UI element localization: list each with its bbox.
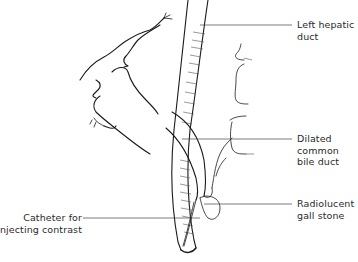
duodenum-outline [216, 44, 254, 176]
gall-stone [200, 196, 220, 219]
label-left-hepatic-duct: Left hepatic duct [297, 19, 354, 42]
leader-lines [83, 25, 292, 218]
label-catheter: Catheter for injecting contrast [0, 212, 82, 235]
label-radiolucent-gall-stone: Radiolucent gall stone [297, 198, 354, 221]
intrahepatic-ducts [80, 13, 172, 154]
label-dilated-common-bile-duct: Dilated common bile duct [297, 133, 339, 168]
catheter [172, 0, 208, 252]
